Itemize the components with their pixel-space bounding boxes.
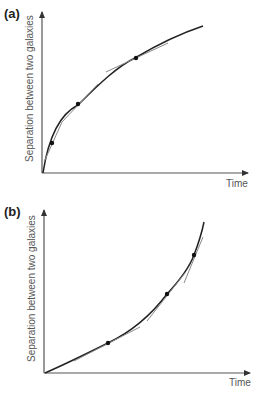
panel-a-point-2 bbox=[76, 102, 80, 106]
diagram-graphics bbox=[0, 0, 261, 395]
panel-a-axes bbox=[42, 12, 248, 173]
panel-a-point-3 bbox=[134, 56, 138, 60]
panel-a-point-1 bbox=[50, 141, 54, 145]
panel-a-tangent-2 bbox=[62, 84, 98, 122]
panel-b-curve bbox=[45, 222, 204, 373]
panel-b-tangent-2 bbox=[147, 273, 185, 321]
panel-b-point-2 bbox=[165, 292, 169, 296]
panel-b-axes bbox=[44, 210, 250, 373]
panel-b-point-1 bbox=[106, 341, 110, 345]
panel-b-point-3 bbox=[192, 253, 196, 257]
panel-b-tangent-3 bbox=[184, 237, 203, 283]
panel-a-curve bbox=[43, 26, 203, 173]
